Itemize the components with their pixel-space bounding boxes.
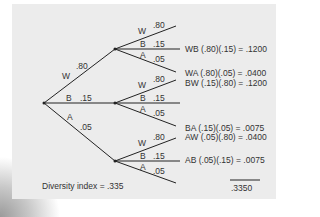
product-aw: AW (.05)(.80) = .0400: [185, 133, 267, 142]
sub3-prob-w: .80: [153, 133, 165, 142]
sub2-prob-b: .15: [153, 94, 165, 103]
product-wa: WA (.80)(.05) = .0400: [185, 69, 266, 78]
total-value: .3350: [231, 184, 252, 193]
diversity-index-caption: Diversity index = .335: [42, 182, 124, 191]
sub1-prob-a: .05: [153, 55, 165, 64]
branch-prob-a: .05: [80, 123, 92, 132]
branch-prob-w: .80: [76, 62, 88, 71]
sub2-label-w: W: [138, 81, 146, 90]
branch-label-b: B: [66, 94, 72, 103]
product-ab: AB (.05)(.15) = .0075: [185, 156, 265, 165]
sub3-label-a: A: [140, 163, 146, 172]
sub1-prob-b: .15: [153, 40, 165, 49]
branch-label-w: W: [62, 72, 70, 81]
sub3-label-b: B: [140, 152, 146, 161]
sub3-label-w: W: [138, 139, 146, 148]
sub2-label-a: A: [140, 105, 146, 114]
sub1-label-b: B: [140, 40, 146, 49]
sub1-label-w: W: [138, 27, 146, 36]
branch-label-a: A: [67, 113, 73, 122]
branch-prob-b: .15: [80, 94, 92, 103]
sub1-label-a: A: [140, 51, 146, 60]
sub1-prob-w: .80: [153, 21, 165, 30]
sub2-prob-a: .05: [153, 109, 165, 118]
product-bw: BW (.15)(.80) = .1200: [185, 79, 267, 88]
sub3-prob-a: .05: [153, 167, 165, 176]
product-wb: WB (.80)(.15) = .1200: [185, 45, 267, 54]
sub2-prob-w: .80: [153, 75, 165, 84]
sub3-prob-b: .15: [153, 152, 165, 161]
sub2-label-b: B: [140, 94, 146, 103]
